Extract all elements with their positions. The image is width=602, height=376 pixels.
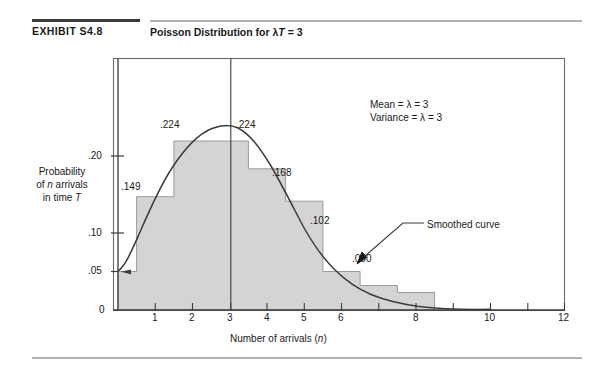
distribution-stats-note: Mean = λ = 3 Variance = λ = 3 (370, 98, 442, 124)
y-tick-label-005: .05 (88, 265, 102, 276)
data-label-n6: .050 (352, 253, 371, 264)
y-axis-title-line2-post: arrivals (53, 179, 88, 190)
y-axis-title-line3-pre: in time (43, 192, 75, 203)
variance-annotation: Variance = λ = 3 (370, 111, 442, 124)
data-label-n5: .102 (310, 215, 329, 226)
y-tick-label-010: .10 (88, 227, 102, 238)
x-axis-title: Number of arrivals (n) (230, 333, 327, 344)
x-tick-label-1: 1 (152, 312, 158, 323)
x-tick-label-12: 12 (558, 312, 569, 323)
x-tick-label-3: 3 (227, 312, 233, 323)
smoothed-curve-annotation: Smoothed curve (427, 219, 500, 230)
y-axis-title-line1: Probability (22, 165, 102, 178)
mean-annotation: Mean = λ = 3 (370, 98, 442, 111)
x-tick-label-5: 5 (301, 312, 307, 323)
x-tick-label-2: 2 (189, 312, 195, 323)
y-tick-label-0: 0 (99, 304, 105, 315)
data-label-n3: .224 (236, 119, 255, 130)
x-axis-title-pre: Number of arrivals ( (230, 333, 318, 344)
y-axis-title-line2: of n arrivals (22, 178, 102, 191)
x-tick-label-6: 6 (338, 312, 344, 323)
data-label-n4: .168 (272, 167, 291, 178)
data-label-n1: .149 (121, 181, 140, 192)
x-tick-label-4: 4 (264, 312, 270, 323)
y-axis-title-line2-pre: of (36, 179, 47, 190)
x-tick-label-10: 10 (484, 312, 495, 323)
y-axis-title-var-T: T (75, 192, 81, 203)
y-axis-title-line3: in time T (22, 191, 102, 204)
x-axis-title-post: ) (323, 333, 326, 344)
footer-rule (32, 357, 582, 359)
data-label-n2: .224 (160, 119, 179, 130)
y-axis-title: Probability of n arrivals in time T (22, 165, 102, 204)
y-tick-label-020: .20 (88, 150, 102, 161)
x-tick-label-8: 8 (413, 312, 419, 323)
